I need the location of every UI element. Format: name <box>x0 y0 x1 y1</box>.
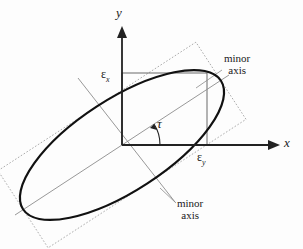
epsilon-x-label: εx <box>101 64 110 85</box>
epsilon-y-subscript: y <box>202 158 206 167</box>
minor-axis-top-line2: axis <box>224 65 250 77</box>
minor-axis-bottom-line2: axis <box>177 210 203 222</box>
diagram-canvas <box>0 0 303 249</box>
minor-axis-top-label: minor axis <box>224 53 250 77</box>
minor-axis-bottom-leader <box>160 188 176 203</box>
tau-angle-label: τ <box>157 117 162 131</box>
y-axis-label: y <box>116 6 122 20</box>
polarization-ellipse-figure: y x τ εx εy minor axis minor axis <box>0 0 303 249</box>
y-axis-arrowhead <box>117 26 127 38</box>
epsilon-y-label: εy <box>197 147 206 168</box>
upright-bounding-box <box>122 73 207 145</box>
epsilon-x-subscript: x <box>106 75 110 84</box>
minor-axis-line <box>78 78 175 202</box>
x-axis-arrowhead <box>268 140 280 150</box>
minor-axis-bottom-label: minor axis <box>177 198 203 222</box>
x-axis-label: x <box>284 136 290 150</box>
